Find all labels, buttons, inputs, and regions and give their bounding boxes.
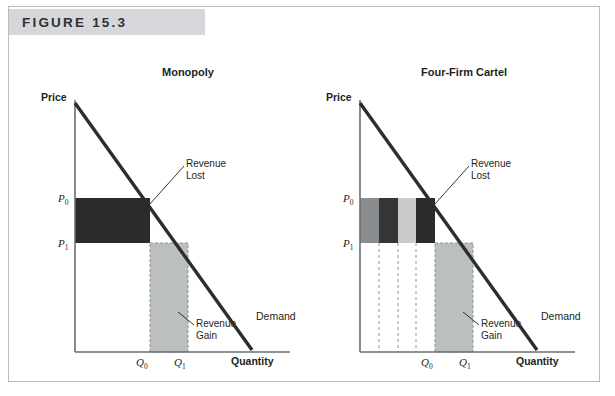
leader-line-revenue-lost-cartel — [426, 166, 469, 214]
four-firm-cartel-plot — [0, 0, 615, 396]
revenue-gain-region-cartel — [435, 243, 473, 352]
revenue-lost-segment-firm-2 — [379, 198, 398, 243]
revenue-lost-segment-firm-1 — [360, 198, 379, 243]
revenue-lost-segment-firm-3 — [398, 198, 416, 243]
figure-root: FIGURE 15.3 Monopoly Price Quantity P0 P… — [0, 0, 615, 396]
